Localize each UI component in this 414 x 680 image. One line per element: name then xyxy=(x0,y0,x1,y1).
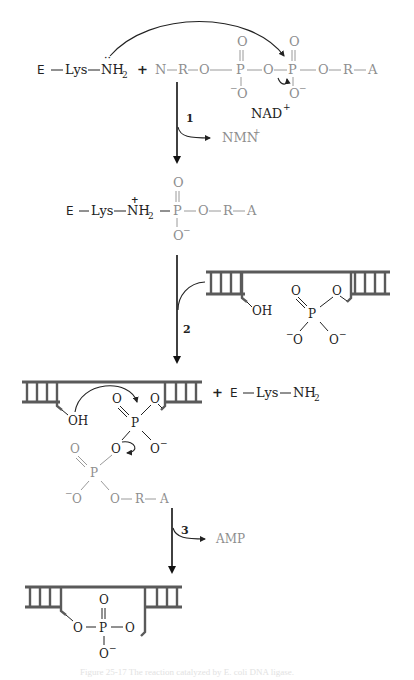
phosphate-p: P xyxy=(308,307,316,321)
nad-r1: R xyxy=(178,62,189,77)
amine-label: NH xyxy=(293,385,316,400)
figure-caption: Figure 25-17 The reaction catalyzed by E… xyxy=(80,667,294,677)
hydroxyl-label: OH xyxy=(68,414,88,428)
phosphate-ominus: O xyxy=(150,442,160,456)
step-number: 2 xyxy=(183,323,191,336)
step-number: 1 xyxy=(186,112,194,125)
byproduct-amp: AMP xyxy=(215,532,245,546)
amp-o: O xyxy=(198,203,209,218)
byproduct-charge: + xyxy=(253,127,261,137)
amp-p: P xyxy=(173,203,182,218)
phosphate-ominus-right: O xyxy=(329,333,339,347)
product-o-left: O xyxy=(73,621,83,635)
phosphate-oxo: O xyxy=(112,392,122,406)
step1-arrow: 1 NMN + xyxy=(177,82,261,162)
product-ominus: O xyxy=(99,647,109,661)
amp-oxo: O xyxy=(173,175,184,190)
release-arrow-icon xyxy=(173,528,205,539)
product-p: P xyxy=(99,621,107,635)
product-oxo: O xyxy=(99,593,109,607)
sealed-dna-product: O P O O − O xyxy=(25,587,182,661)
release-arrow-icon xyxy=(178,127,210,138)
phosphate-ominus-left: O xyxy=(293,333,303,347)
amp-p: P xyxy=(90,466,98,480)
attack-arrow-icon xyxy=(110,22,284,57)
nad-o1: O xyxy=(199,62,210,77)
amine-charge: + xyxy=(131,195,139,205)
nad-o2: O xyxy=(318,62,329,77)
plus-sign: + xyxy=(137,62,148,77)
nad-p1-oxo: O xyxy=(237,34,248,49)
product-o-right: O xyxy=(125,621,135,635)
enzyme-label: E xyxy=(66,204,74,218)
phosphate-p: P xyxy=(131,416,139,430)
nad-p1-ominus: O xyxy=(237,86,248,101)
plus-sign: + xyxy=(212,385,223,400)
amp-ominus: O xyxy=(72,492,82,506)
minus: − xyxy=(286,329,294,339)
attack-arrow-icon xyxy=(75,386,137,412)
minus: − xyxy=(109,643,117,653)
minus: − xyxy=(160,438,168,448)
lys-label: Lys xyxy=(256,385,278,400)
amp-a: A xyxy=(159,492,169,506)
amine-subscript: 2 xyxy=(148,211,154,221)
cofactor-label: NAD xyxy=(251,106,282,121)
nad-o-bridge: O xyxy=(263,62,274,77)
leaving-arrow-icon xyxy=(278,78,287,84)
amp-a: A xyxy=(246,203,257,218)
enzyme-label: E xyxy=(230,386,238,400)
amine-label: NH xyxy=(127,203,150,218)
cofactor-charge: + xyxy=(283,102,291,112)
amine-subscript: 2 xyxy=(122,70,128,80)
step3-arrow: 3 AMP xyxy=(172,508,245,572)
minus: − xyxy=(230,83,238,93)
amp-r: R xyxy=(135,492,145,506)
step2-arrow: 2 xyxy=(177,255,205,362)
amine-subscript: 2 xyxy=(314,393,320,403)
phosphate-oxo: O xyxy=(291,284,301,298)
dna-adenylate-intermediate: OH O O P O O − O P O − O R A + E Lys NH xyxy=(22,382,320,506)
lys-label: Lys xyxy=(91,203,113,218)
nad-r2: R xyxy=(343,62,354,77)
bridge-oxygen: O xyxy=(111,442,121,456)
step1-reactants: E Lys NH 2 ·· + N R O P O O − O P O xyxy=(37,22,378,122)
minus: − xyxy=(339,329,347,339)
amp-r: R xyxy=(223,203,234,218)
ligase-mechanism-diagram: E Lys NH 2 ·· + N R O P O O − O P O xyxy=(0,0,414,680)
amp-oxo: O xyxy=(70,442,80,456)
amp-o: O xyxy=(110,492,120,506)
nad-molecule: N R O P O O − O P O O − O R A xyxy=(155,34,378,101)
entry-arrow-icon xyxy=(178,282,205,310)
minus: − xyxy=(299,83,307,93)
nad-p2-oxo: O xyxy=(289,34,300,49)
step-number: 3 xyxy=(181,524,189,537)
nad-p2: P xyxy=(288,62,297,77)
minus: − xyxy=(65,488,73,498)
minus: − xyxy=(183,225,191,235)
leaving-arrow-icon xyxy=(122,442,135,453)
nad-n: N xyxy=(155,62,166,77)
nad-p1: P xyxy=(236,62,245,77)
enzyme-amp-intermediate: E Lys NH 2 + P O O − O R A xyxy=(66,175,257,243)
enzyme-label: E xyxy=(37,63,45,77)
lys-label: Lys xyxy=(65,62,87,77)
nicked-dna: OH O O P O − O − xyxy=(206,272,390,347)
lone-pair: ·· xyxy=(104,52,111,65)
hydroxyl-label: OH xyxy=(252,304,272,318)
nad-a: A xyxy=(367,62,378,77)
